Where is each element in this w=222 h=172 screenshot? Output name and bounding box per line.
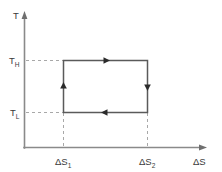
x-tick-label-ds1: ΔS1 <box>55 156 72 169</box>
y-tick-tl-sub: L <box>16 113 20 120</box>
axes-group <box>22 11 207 150</box>
arrow-top-right-icon <box>104 57 111 64</box>
y-tick-label-th: TH <box>9 55 20 68</box>
y-tick-label-tl: TL <box>10 107 20 120</box>
arrow-bottom-left-icon <box>101 109 108 116</box>
temperature-axis-label: T <box>13 10 19 21</box>
x-tick-ds2-sub: 2 <box>152 162 156 169</box>
carnot-cycle-rectangle <box>64 61 148 113</box>
cycle-direction-arrows <box>60 57 151 116</box>
carnot-ts-diagram: T TH TL ΔS1 ΔS2 ΔS <box>0 0 222 172</box>
arrow-left-up-icon <box>60 82 67 89</box>
labels-group: T TH TL ΔS1 ΔS2 ΔS <box>9 10 206 169</box>
cycle-path-group <box>64 61 148 113</box>
entropy-axis-label: ΔS <box>193 156 206 167</box>
y-tick-th-sub: H <box>15 61 20 68</box>
guide-lines-group <box>26 61 148 147</box>
x-tick-ds1-base: ΔS <box>55 156 68 167</box>
arrow-right-down-icon <box>144 85 151 92</box>
x-tick-ds1-sub: 1 <box>68 162 72 169</box>
diagram-canvas: T TH TL ΔS1 ΔS2 ΔS <box>0 0 222 172</box>
x-tick-label-ds2: ΔS2 <box>139 156 156 169</box>
entropy-axis-arrowhead <box>199 145 207 151</box>
temperature-axis-arrowhead <box>22 11 28 19</box>
x-tick-ds2-base: ΔS <box>139 156 152 167</box>
